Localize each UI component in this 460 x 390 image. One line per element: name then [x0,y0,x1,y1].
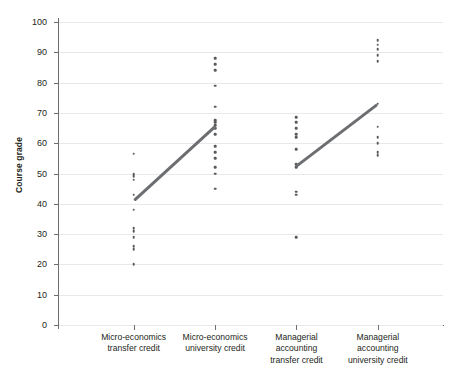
data-point [295,121,298,124]
y-tick-label: 20 [37,259,47,269]
gridline [59,325,443,326]
gridline [59,295,443,296]
data-point [132,153,135,156]
data-point [132,178,135,181]
data-point [132,236,135,239]
data-point [295,116,298,119]
data-point [214,57,217,60]
data-point [214,84,217,87]
data-point [377,43,380,46]
y-tick-mark: 80 [54,83,58,84]
y-tick-label: 50 [37,169,47,179]
data-point [377,154,380,157]
gridline [59,174,443,175]
gridline [59,52,443,53]
y-tick-mark: 90 [54,52,58,53]
y-tick-label: 90 [37,47,47,57]
data-point [132,263,135,266]
data-point [132,172,135,175]
x-category-label-line: transfer credit [270,355,323,366]
gridline [59,264,443,265]
data-point [132,245,135,248]
data-point [214,145,217,148]
data-point [214,166,217,169]
x-tick-mark [215,325,216,330]
gridline [59,143,443,144]
x-tick-mark [134,325,135,330]
y-tick-mark: 40 [54,204,58,205]
data-point [132,227,135,230]
y-tick-mark: 0 [54,325,58,326]
y-tick-mark: 10 [54,295,58,296]
data-point [377,54,380,57]
data-point [295,127,298,130]
y-tick-label: 0 [42,320,47,330]
x-category-label-line: Managerial [348,332,408,343]
y-tick-label: 100 [32,17,47,27]
data-point [377,48,380,51]
mean-connector-line [133,126,216,202]
x-axis-category-labels: Micro-economicstransfer creditMicro-econ… [58,332,443,382]
data-point [214,119,217,122]
data-point [132,193,135,196]
y-tick-mark: 50 [54,174,58,175]
gridline [59,113,443,114]
y-tick-label: 70 [37,108,47,118]
data-point [214,151,217,154]
data-point [377,39,380,42]
y-tick-mark: 20 [54,264,58,265]
x-category-label-line: university credit [183,343,248,354]
x-category-label-line: Managerial [270,332,323,343]
gridline [59,22,443,23]
data-point [295,148,298,151]
data-point [377,142,380,145]
y-axis-title-text: Course grade [14,137,24,193]
data-point [214,157,217,160]
x-category-label-line: accounting [270,343,323,354]
x-category-label: Micro-economicstransfer credit [101,332,166,355]
y-tick-label: 30 [37,229,47,239]
data-point [214,133,217,136]
data-point [214,172,217,175]
data-point [132,248,135,251]
data-point [214,106,217,109]
y-tick-mark: 60 [54,143,58,144]
x-category-label-line: university credit [348,355,408,366]
gridline [59,234,443,235]
data-point [295,136,298,139]
data-point [214,69,217,72]
data-point [295,133,298,136]
chart-figure: Course grade 0102030405060708090100 Micr… [0,0,460,390]
y-tick-mark: 30 [54,234,58,235]
data-point [132,230,135,233]
x-category-label: Managerialaccountingtransfer credit [270,332,323,366]
data-point [377,136,380,139]
y-tick-label: 80 [37,78,47,88]
y-tick-label: 60 [37,138,47,148]
data-point [214,63,217,66]
x-category-label-line: transfer credit [101,343,166,354]
gridline [59,204,443,205]
x-category-label: Managerialaccountinguniversity credit [348,332,408,366]
x-category-label: Micro-economicsuniversity credit [183,332,248,355]
data-point [214,187,217,190]
y-tick-mark: 100 [54,22,58,23]
x-tick-mark [378,325,379,330]
data-point [132,209,135,212]
plot-area: 0102030405060708090100 [58,22,443,325]
x-tick-mark [296,325,297,330]
y-tick-mark: 70 [54,113,58,114]
data-point [295,190,298,193]
data-point [377,125,380,128]
data-point [377,60,380,63]
x-category-label-line: accounting [348,343,408,354]
data-point [295,236,298,239]
y-tick-label: 10 [37,290,47,300]
x-category-label-line: Micro-economics [101,332,166,343]
gridline [59,83,443,84]
x-category-label-line: Micro-economics [183,332,248,343]
data-point [295,193,298,196]
y-axis-title: Course grade [8,0,30,330]
y-tick-label: 40 [37,199,47,209]
data-point [377,151,380,154]
